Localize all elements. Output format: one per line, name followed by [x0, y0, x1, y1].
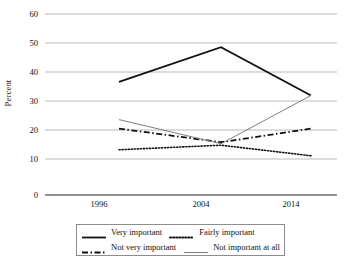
- x-tick-label: 2014: [271, 200, 311, 209]
- legend-label: Fairly important: [199, 228, 254, 237]
- legend-label: Not very important: [111, 243, 176, 252]
- legend-row: Very important Fairly important: [77, 225, 284, 240]
- legend-label: Not important at all: [213, 243, 280, 252]
- legend-swatch-dashdot-icon: [81, 243, 107, 252]
- x-tick-label: 2004: [181, 200, 221, 209]
- chart-legend: Very important Fairly important Not very…: [76, 224, 285, 256]
- line-chart: Percent 60 50 40 30 20 10 0 1996 2004 20…: [0, 0, 353, 266]
- legend-item-fairly-important: Fairly important: [169, 228, 254, 237]
- legend-item-not-very-important: Not very important: [81, 243, 176, 252]
- legend-swatch-dotted-icon: [169, 228, 195, 237]
- x-tick-label: 1996: [79, 200, 119, 209]
- legend-swatch-gray-solid-icon: [183, 243, 209, 252]
- legend-item-very-important: Very important: [81, 228, 162, 237]
- legend-swatch-solid-icon: [81, 228, 107, 237]
- legend-label: Very important: [111, 228, 162, 237]
- legend-row: Not very important Not important at all: [77, 240, 284, 255]
- legend-item-not-important-at-all: Not important at all: [183, 243, 280, 252]
